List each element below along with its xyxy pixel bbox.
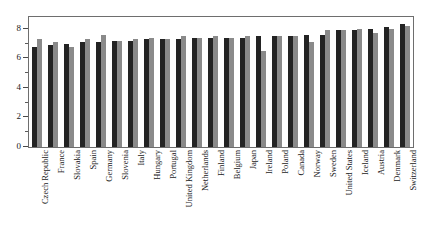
bar: [245, 36, 250, 147]
x-axis-labels: Czech RepublicFranceSlovakiaSpainGermany…: [29, 150, 413, 242]
bar: [357, 29, 362, 147]
bar: [197, 38, 202, 147]
bar: [165, 39, 170, 147]
x-axis-label-cell: Ireland: [253, 150, 269, 242]
bar-group: [173, 17, 189, 147]
x-axis-label-cell: Iceland: [349, 150, 365, 242]
bar-group: [317, 17, 333, 147]
x-axis-label-cell: Norway: [301, 150, 317, 242]
bar: [325, 30, 330, 147]
bar-group: [397, 17, 413, 147]
x-axis-label-cell: Austria: [365, 150, 381, 242]
y-axis-tick-label: 0: [17, 142, 22, 151]
bar-group: [109, 17, 125, 147]
x-axis-label-cell: Canada: [285, 150, 301, 242]
bar-group: [349, 17, 365, 147]
bar-group: [381, 17, 397, 147]
bar: [341, 30, 346, 147]
x-axis-label-cell: Sweden: [317, 150, 333, 242]
bar-chart: 02468 Czech RepublicFranceSlovakiaSpainG…: [0, 0, 421, 243]
x-axis-label-cell: Spain: [77, 150, 93, 242]
bar: [181, 36, 186, 147]
y-axis-tick-label: 4: [17, 82, 22, 91]
bar-group: [301, 17, 317, 147]
bar: [373, 33, 378, 147]
bar-group: [157, 17, 173, 147]
bar-group: [77, 17, 93, 147]
x-axis-label-cell: France: [45, 150, 61, 242]
bar-group: [93, 17, 109, 147]
x-axis-label: Switzerland: [409, 150, 418, 191]
x-axis-label-cell: Hungary: [141, 150, 157, 242]
bar-group: [365, 17, 381, 147]
bar-group: [205, 17, 221, 147]
x-axis-label-cell: Denmark: [381, 150, 397, 242]
bar: [101, 35, 106, 147]
x-axis-label-cell: Poland: [269, 150, 285, 242]
y-axis-tick-label: 8: [17, 23, 22, 32]
bar: [85, 39, 90, 147]
x-axis-label-cell: Japan: [237, 150, 253, 242]
bar-group: [45, 17, 61, 147]
bar: [37, 39, 42, 147]
bar: [229, 38, 234, 147]
bar: [213, 36, 218, 147]
bar-group: [141, 17, 157, 147]
bar: [293, 36, 298, 147]
bar: [69, 47, 74, 147]
bar: [261, 51, 266, 147]
x-axis-label-cell: Slovenia: [109, 150, 125, 242]
bar-group: [285, 17, 301, 147]
y-axis-tick-label: 2: [17, 112, 22, 121]
bar-group: [29, 17, 45, 147]
x-axis-label-cell: Switzerland: [397, 150, 413, 242]
bars-layer: [29, 17, 413, 147]
bar-group: [253, 17, 269, 147]
x-axis-label-cell: Czech Republic: [29, 150, 45, 242]
bar-group: [125, 17, 141, 147]
bar-group: [221, 17, 237, 147]
bar: [389, 29, 394, 147]
bar-group: [237, 17, 253, 147]
y-axis-tick-label: 6: [17, 53, 22, 62]
y-axis: 02468: [0, 16, 28, 148]
x-axis-label-cell: Germany: [93, 150, 109, 242]
bar: [53, 42, 58, 147]
bar-group: [61, 17, 77, 147]
x-axis-label-cell: Finland: [205, 150, 221, 242]
x-axis-label-cell: Belgium: [221, 150, 237, 242]
x-axis-label-cell: Italy: [125, 150, 141, 242]
x-axis-label-cell: Netherlands: [189, 150, 205, 242]
bar-group: [189, 17, 205, 147]
bar-group: [333, 17, 349, 147]
x-axis-label-cell: United Kingdom: [173, 150, 189, 242]
bar: [149, 38, 154, 147]
bar: [405, 26, 410, 147]
bar: [133, 39, 138, 147]
x-axis-label-cell: United States: [333, 150, 349, 242]
bar: [277, 36, 282, 147]
bar: [117, 41, 122, 147]
x-axis-label-cell: Slovakia: [61, 150, 77, 242]
x-axis-label-cell: Portugal: [157, 150, 173, 242]
bar: [309, 42, 314, 147]
bar-group: [269, 17, 285, 147]
